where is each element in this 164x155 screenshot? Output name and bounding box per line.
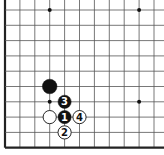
board-grid [5, 0, 164, 148]
black-stone [42, 79, 57, 94]
move-number: 1 [61, 112, 68, 123]
white-stone-2: 2 [58, 126, 71, 139]
black-stone-1: 1 [58, 111, 71, 124]
star-point-icon [48, 8, 52, 12]
white-stone-icon [43, 111, 56, 124]
move-number: 3 [61, 96, 68, 107]
move-number: 4 [76, 112, 83, 123]
white-stone [43, 111, 56, 124]
star-point-icon [137, 100, 141, 104]
star-point-icon [48, 100, 52, 104]
black-stone-3: 3 [58, 95, 71, 108]
white-stone-4: 4 [73, 111, 86, 124]
star-point-icon [137, 8, 141, 12]
black-stone-icon [42, 79, 57, 94]
move-number: 2 [61, 127, 68, 138]
go-board: 1234 [0, 0, 164, 155]
